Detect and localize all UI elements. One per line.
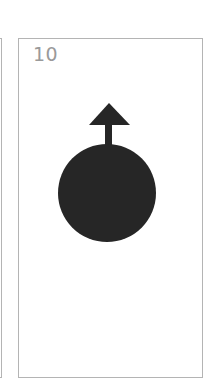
circle-icon: [58, 144, 156, 242]
arrow-head-icon: [89, 103, 130, 125]
partial-card-left[interactable]: [0, 38, 2, 378]
card[interactable]: 10: [18, 38, 203, 378]
arrow-stem: [105, 123, 112, 145]
circle-arrow-up-icon: [19, 39, 204, 352]
